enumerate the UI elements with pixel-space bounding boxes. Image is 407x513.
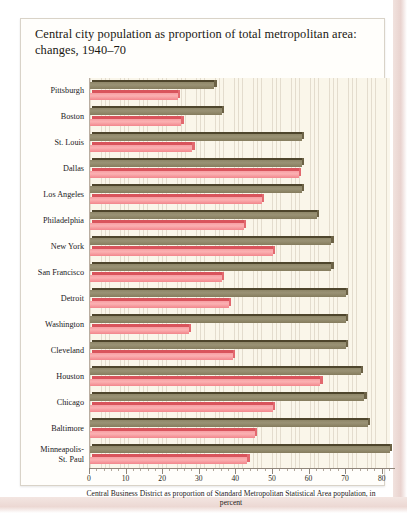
page-edge-right <box>393 0 407 513</box>
x-axis-minor-tick <box>148 469 149 471</box>
x-axis-minor-tick <box>133 469 134 471</box>
x-axis-tick-label: 80 <box>370 474 394 483</box>
city-label: Boston <box>0 112 84 122</box>
x-axis: 01020304050607080 <box>89 468 395 475</box>
chart-row: Boston <box>90 104 390 130</box>
plot-area: PittsburghBostonSt. LouisDallasLos Angel… <box>89 78 390 468</box>
x-axis-minor-tick <box>213 469 214 471</box>
chart-row: Pittsburgh <box>90 78 390 104</box>
bar-1970 <box>90 249 273 256</box>
city-label: Cleveland <box>0 346 84 356</box>
x-axis-minor-tick <box>250 469 251 471</box>
x-axis-minor-tick <box>367 469 368 471</box>
bar-rows: PittsburghBostonSt. LouisDallasLos Angel… <box>90 78 390 468</box>
x-axis-minor-tick <box>169 469 170 471</box>
city-label: Chicago <box>0 398 84 408</box>
x-axis-minor-tick <box>111 469 112 471</box>
bar-1940 <box>90 394 364 401</box>
x-axis-minor-tick <box>118 469 119 471</box>
chart-row: New York <box>90 234 390 260</box>
city-label: Houston <box>0 372 84 382</box>
x-axis-minor-tick <box>206 469 207 471</box>
x-axis-minor-tick <box>374 469 375 471</box>
x-axis-minor-tick <box>243 469 244 471</box>
x-axis-tick <box>235 469 236 474</box>
x-axis-tick <box>309 469 310 474</box>
x-axis-minor-tick <box>221 469 222 471</box>
x-axis-tick-label: 50 <box>260 474 284 483</box>
x-axis-tick <box>382 469 383 474</box>
bar-1970 <box>90 431 255 438</box>
city-label: Dallas <box>0 164 84 174</box>
bar-1970 <box>90 119 181 126</box>
x-axis-tick <box>345 469 346 474</box>
bar-1940 <box>90 290 346 297</box>
x-axis-minor-tick <box>287 469 288 471</box>
x-axis-minor-tick <box>155 469 156 471</box>
x-axis-minor-tick <box>338 469 339 471</box>
x-axis-tick <box>272 469 273 474</box>
city-label: Baltimore <box>0 424 84 434</box>
chart-row: Philadelphia <box>90 208 390 234</box>
x-axis-minor-tick <box>323 469 324 471</box>
x-axis-caption: Central Business District as proportion … <box>81 489 381 508</box>
bar-1970 <box>90 327 189 334</box>
bar-1940 <box>90 134 302 141</box>
bar-1940 <box>90 186 302 193</box>
city-label: Washington <box>0 320 84 330</box>
city-label: Detroit <box>0 294 84 304</box>
x-axis-minor-tick <box>228 469 229 471</box>
x-axis-minor-tick <box>257 469 258 471</box>
bar-1970 <box>90 93 178 100</box>
city-label: Los Angeles <box>0 190 84 200</box>
chart-row: Dallas <box>90 156 390 182</box>
x-axis-tick-label: 20 <box>150 474 174 483</box>
chart-page: Central city population as proportion of… <box>0 0 407 513</box>
x-axis-minor-tick <box>140 469 141 471</box>
bar-1970 <box>90 275 222 282</box>
chart-row: Baltimore <box>90 416 390 442</box>
city-label: Philadelphia <box>0 216 84 226</box>
chart-row: San Francisco <box>90 260 390 286</box>
bar-1970 <box>90 353 233 360</box>
x-axis-tick-label: 40 <box>223 474 247 483</box>
bar-1940 <box>90 368 361 375</box>
x-axis-tick-label: 70 <box>333 474 357 483</box>
bar-1940 <box>90 446 390 453</box>
x-axis-minor-tick <box>177 469 178 471</box>
chart-row: St. Louis <box>90 130 390 156</box>
city-label: St. Louis <box>0 138 84 148</box>
bar-1940 <box>90 342 346 349</box>
city-label: Pittsburgh <box>0 86 84 96</box>
city-label: Minneapolis- St. Paul <box>0 445 84 464</box>
bar-1970 <box>90 379 320 386</box>
bar-1940 <box>90 316 346 323</box>
bar-1940 <box>90 420 368 427</box>
x-axis-minor-tick <box>279 469 280 471</box>
x-axis-minor-tick <box>96 469 97 471</box>
page-title: Central city population as proportion of… <box>35 27 373 58</box>
bar-1970 <box>90 223 244 230</box>
bar-1970 <box>90 171 299 178</box>
bar-1970 <box>90 145 192 152</box>
chart-row: Minneapolis- St. Paul <box>90 442 390 468</box>
bar-1970 <box>90 197 262 204</box>
chart-row: Washington <box>90 312 390 338</box>
bar-1970 <box>90 405 273 412</box>
x-axis-minor-tick <box>330 469 331 471</box>
chart-row: Detroit <box>90 286 390 312</box>
bar-1970 <box>90 301 229 308</box>
x-axis-minor-tick <box>294 469 295 471</box>
x-axis-minor-tick <box>301 469 302 471</box>
x-axis-minor-tick <box>352 469 353 471</box>
bar-1940 <box>90 108 222 115</box>
x-axis-minor-tick <box>184 469 185 471</box>
x-axis-minor-tick <box>265 469 266 471</box>
x-axis-tick <box>199 469 200 474</box>
bar-1940 <box>90 160 302 167</box>
bar-1940 <box>90 212 317 219</box>
bar-1940 <box>90 238 331 245</box>
chart-row: Los Angeles <box>90 182 390 208</box>
chart-card: Central city population as proportion of… <box>20 18 385 486</box>
chart-row: Houston <box>90 364 390 390</box>
